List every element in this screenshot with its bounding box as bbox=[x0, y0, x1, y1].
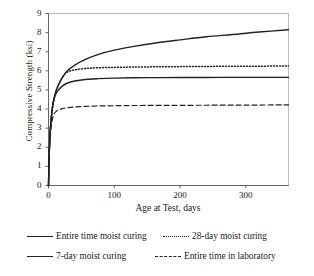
legend-entry-7-day-moist-curing[interactable]: 7-day moist curing bbox=[27, 251, 126, 261]
data-series-line bbox=[49, 30, 289, 186]
data-series-line bbox=[49, 77, 289, 185]
legend-entry-entire-time-moist-curing[interactable]: Entire time moist curing bbox=[27, 231, 147, 241]
figure: Compressive Strength (ksi) Age at Test, … bbox=[0, 0, 314, 276]
data-series-line bbox=[49, 66, 289, 185]
x-axis-title: Age at Test, days bbox=[48, 203, 288, 213]
legend-line-sample-solid-icon bbox=[27, 252, 53, 260]
data-series-group bbox=[49, 30, 289, 186]
legend-row: Entire time moist curing 28-day moist cu… bbox=[0, 226, 314, 246]
legend-entry-entire-time-in-laboratory[interactable]: Entire time in laboratory bbox=[155, 251, 276, 261]
legend-row: 7-day moist curing Entire time in labora… bbox=[0, 246, 314, 266]
x-axis-tick-label: 200 bbox=[165, 190, 195, 200]
y-axis-tick-label: 6 bbox=[28, 65, 42, 75]
plot-frame bbox=[49, 14, 289, 186]
legend-entry-28-day-moist-curing[interactable]: 28-day moist curing bbox=[163, 231, 267, 241]
y-axis-tick-label: 7 bbox=[28, 46, 42, 56]
x-axis-tick-label: 0 bbox=[34, 190, 64, 200]
y-axis-tick-label: 9 bbox=[28, 8, 42, 18]
y-axis-tick-label: 2 bbox=[28, 141, 42, 151]
y-axis-tick-label: 1 bbox=[28, 160, 42, 170]
legend-label: Entire time in laboratory bbox=[184, 251, 276, 261]
y-axis-tick-label: 8 bbox=[28, 27, 42, 37]
legend-label: Entire time moist curing bbox=[56, 231, 147, 241]
y-axis-tick-label: 5 bbox=[28, 84, 42, 94]
legend-line-sample-solid-icon bbox=[27, 232, 53, 240]
y-axis-tick-label: 4 bbox=[28, 103, 42, 113]
legend-label: 7-day moist curing bbox=[56, 251, 126, 261]
legend-label: 28-day moist curing bbox=[192, 231, 267, 241]
x-axis-tick-label: 100 bbox=[99, 190, 129, 200]
data-series-line bbox=[49, 105, 289, 186]
x-axis-tick-label: 300 bbox=[231, 190, 261, 200]
chart-plot-area: Compressive Strength (ksi) Age at Test, … bbox=[0, 0, 314, 222]
chart-legend: Entire time moist curing 28-day moist cu… bbox=[0, 224, 314, 274]
legend-line-sample-dotted-icon bbox=[163, 232, 189, 240]
legend-line-sample-dashed-icon bbox=[155, 252, 181, 260]
y-axis-tick-label: 3 bbox=[28, 122, 42, 132]
y-axis-tick-label: 0 bbox=[28, 180, 42, 190]
